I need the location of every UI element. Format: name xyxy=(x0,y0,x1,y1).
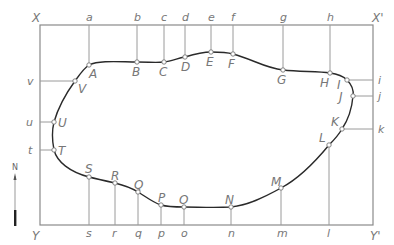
ref-label-p: p xyxy=(157,227,165,240)
ref-label-n: n xyxy=(228,227,235,240)
point-T xyxy=(52,148,56,152)
point-label-N: N xyxy=(225,193,234,207)
point-label-F: F xyxy=(228,57,236,71)
point-label-B: B xyxy=(132,65,140,79)
ref-label-o: o xyxy=(181,227,188,240)
ref-label-u: u xyxy=(26,116,33,129)
ref-label-c: c xyxy=(161,11,167,24)
point-label-Q: Q xyxy=(134,178,143,192)
point-G xyxy=(281,68,285,72)
point-B xyxy=(135,60,139,64)
corner-label-Y: Y xyxy=(32,229,41,243)
point-label-T: T xyxy=(58,144,67,158)
corner-label-Xprime: X' xyxy=(371,11,384,25)
point-label-A: A xyxy=(88,67,97,81)
point-label-D: D xyxy=(181,60,190,74)
ref-label-j: j xyxy=(376,90,382,103)
point-label-O: O xyxy=(179,193,188,207)
point-H xyxy=(328,71,332,75)
ref-label-k: k xyxy=(378,123,385,136)
point-E xyxy=(209,50,213,54)
point-F xyxy=(231,52,235,56)
ref-label-f: f xyxy=(231,11,237,24)
point-I xyxy=(345,78,349,82)
point-label-J: J xyxy=(337,90,343,104)
point-label-G: G xyxy=(277,73,286,87)
point-U xyxy=(52,120,56,124)
traverse-diagram: X X' Y Y' a b c d e f g h i j k l m n o … xyxy=(0,0,394,245)
ref-label-s: s xyxy=(86,227,92,240)
ref-label-b: b xyxy=(134,11,141,24)
ref-label-v: v xyxy=(27,75,34,88)
ref-label-l: l xyxy=(327,227,330,240)
corner-label-Yprime: Y' xyxy=(370,229,381,243)
point-label-S: S xyxy=(85,162,93,176)
ref-label-d: d xyxy=(182,11,190,24)
point-label-M: M xyxy=(271,175,282,189)
north-arrow-icon: N xyxy=(12,163,18,226)
point-label-L: L xyxy=(319,131,326,145)
curve-points xyxy=(52,50,355,209)
traverse-curve xyxy=(53,52,354,207)
point-C xyxy=(162,60,166,64)
ref-label-h: h xyxy=(327,11,334,24)
ref-label-r: r xyxy=(112,227,118,240)
corner-label-X: X xyxy=(31,11,41,25)
point-label-R: R xyxy=(111,169,119,183)
point-V xyxy=(73,79,77,83)
ref-label-g: g xyxy=(280,11,287,24)
point-L xyxy=(327,143,331,147)
point-label-U: U xyxy=(58,116,67,130)
point-label-E: E xyxy=(206,55,214,69)
point-label-K: K xyxy=(331,115,340,129)
point-D xyxy=(183,55,187,59)
ref-label-e: e xyxy=(208,11,215,24)
point-label-H: H xyxy=(320,76,329,90)
point-label-C: C xyxy=(159,65,168,79)
point-J xyxy=(351,94,355,98)
north-label: N xyxy=(12,163,18,172)
point-label-P: P xyxy=(158,191,166,205)
point-K xyxy=(340,127,344,131)
bottom-ordinates xyxy=(89,145,329,225)
ref-label-a: a xyxy=(86,11,93,24)
ref-label-q: q xyxy=(135,227,142,240)
ref-label-m: m xyxy=(277,227,288,240)
ref-label-t: t xyxy=(28,144,33,157)
ref-label-i: i xyxy=(378,74,381,87)
point-label-V: V xyxy=(78,82,87,96)
